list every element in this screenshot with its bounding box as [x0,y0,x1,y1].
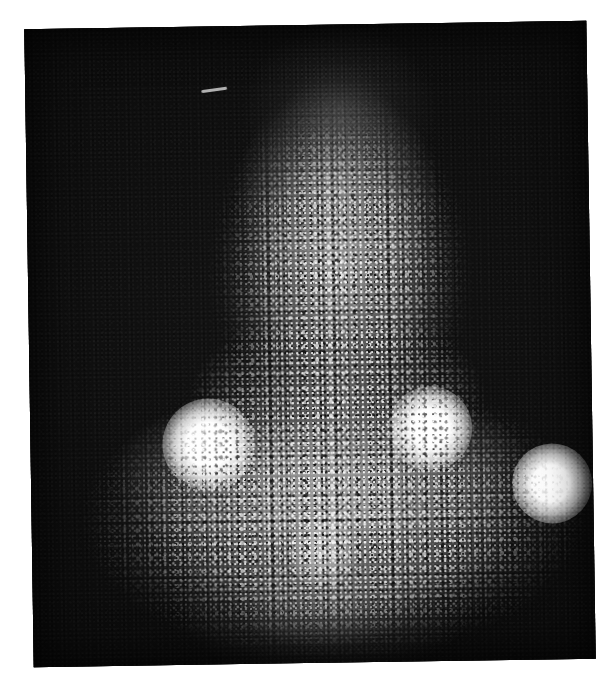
screenshot-canvas [0,0,608,687]
speckle-layer-fine [24,21,595,667]
scintigram-plate [24,21,595,667]
speckle-layer-medium [24,21,595,667]
speckle-layer-coarse [24,21,595,667]
scintigram-plate-inner [24,21,595,667]
speckle-mask-wrapper [24,21,595,667]
